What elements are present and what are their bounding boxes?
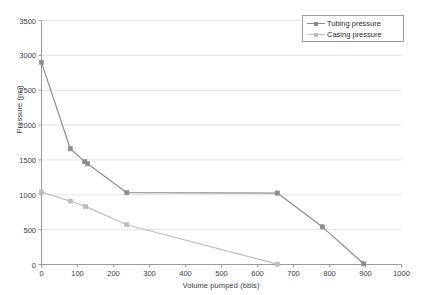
series-markers (39, 60, 365, 266)
data-point-marker (39, 60, 43, 64)
x-axis-tick-label: 500 (215, 269, 228, 278)
chart-container: 0500100015002000250030003500 01002003004… (0, 0, 425, 295)
legend-label-tubing-pressure: Tubing pressure (326, 18, 381, 29)
legend-item-tubing-pressure: Tubing pressure (306, 18, 400, 29)
y-axis-tick-label: 3500 (8, 16, 36, 25)
plot-area (0, 0, 425, 295)
data-point-marker (68, 147, 72, 151)
x-axis-tick-label: 600 (251, 269, 264, 278)
data-point-marker (39, 190, 43, 194)
x-axis-tick-label: 0 (39, 269, 43, 278)
chart-legend: Tubing pressure Casing pressure (302, 15, 404, 42)
x-axis-tick-label: 300 (143, 269, 156, 278)
data-point-marker (320, 225, 324, 229)
legend-label-casing-pressure: Casing pressure (326, 29, 382, 40)
legend-swatch-line-icon (306, 29, 326, 40)
legend-item-casing-pressure: Casing pressure (306, 29, 400, 40)
series-line (42, 192, 278, 264)
gridlines (42, 21, 402, 265)
y-axis-tick-label: 500 (8, 225, 36, 234)
data-point-marker (275, 191, 279, 195)
legend-swatch-line-icon (306, 18, 326, 29)
x-axis-tick-label: 900 (359, 269, 372, 278)
y-axis-title: Pressure (psi) (15, 45, 24, 175)
y-axis-tick-label: 0 (8, 260, 36, 269)
x-axis-tick-label: 700 (287, 269, 300, 278)
x-axis-tick-label: 100 (71, 269, 84, 278)
data-point-marker (85, 162, 89, 166)
data-point-marker (84, 205, 88, 209)
x-axis-tick-label: 200 (107, 269, 120, 278)
data-point-marker (125, 223, 129, 227)
data-point-marker (68, 199, 72, 203)
x-axis-tick-label: 1000 (393, 269, 410, 278)
data-point-marker (275, 262, 279, 266)
x-axis-tick-label: 800 (323, 269, 336, 278)
data-point-marker (362, 262, 366, 266)
x-axis-title: Volume pumped (bbls) (41, 281, 401, 290)
axis-lines (39, 21, 402, 268)
y-axis-tick-label: 1000 (8, 190, 36, 199)
x-axis-tick-label: 400 (179, 269, 192, 278)
data-point-marker (125, 191, 129, 195)
